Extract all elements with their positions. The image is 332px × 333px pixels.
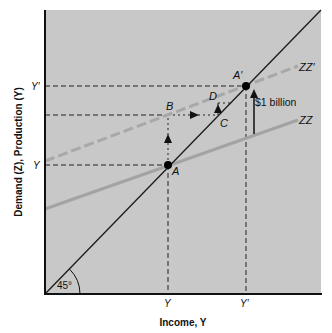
x-axis-title: Income, Y bbox=[159, 317, 206, 328]
label-a-prime: A′ bbox=[232, 69, 243, 81]
point-a bbox=[164, 161, 172, 169]
point-a-prime bbox=[242, 82, 250, 90]
angle-label: 45° bbox=[57, 280, 72, 291]
label-zz-prime: ZZ′ bbox=[298, 61, 315, 73]
y-axis-title: Demand (Z), Production (Y) bbox=[13, 87, 24, 216]
label-d: D bbox=[209, 90, 217, 102]
label-b: B bbox=[166, 100, 173, 112]
y-tick-y-prime: Y′ bbox=[31, 81, 41, 92]
shift-label: $1 billion bbox=[255, 96, 297, 108]
y-tick-y: Y bbox=[33, 160, 41, 171]
label-a: A bbox=[171, 165, 179, 177]
label-c: C bbox=[220, 117, 228, 129]
x-tick-y: Y bbox=[164, 298, 172, 309]
label-zz: ZZ bbox=[298, 114, 314, 126]
x-tick-y-prime: Y′ bbox=[240, 298, 250, 309]
multiplier-diagram: A A′ B C D ZZ′ ZZ $1 billion 45° Y′ Y Y … bbox=[0, 0, 332, 333]
